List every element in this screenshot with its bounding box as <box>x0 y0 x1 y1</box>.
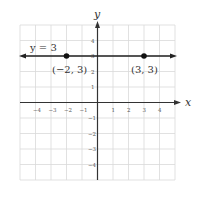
x-tick: 2 <box>127 107 131 113</box>
y-tick: −1 <box>88 115 96 121</box>
x-tick: −4 <box>33 107 42 113</box>
point-neg2-3 <box>64 53 70 59</box>
point-3-3 <box>141 53 147 59</box>
y-tick: 1 <box>91 84 95 90</box>
y-axis-arrow-icon <box>95 21 100 28</box>
x-tick: −1 <box>80 107 88 113</box>
x-tick: −3 <box>49 107 58 113</box>
line-label: y = 3 <box>29 42 57 53</box>
x-axis-label: x <box>185 96 192 109</box>
x-axis-arrow-icon <box>174 100 181 105</box>
y-tick: 4 <box>91 38 95 44</box>
y-tick: 2 <box>91 69 95 75</box>
x-tick: 3 <box>143 107 147 113</box>
y-tick: −2 <box>88 131 96 137</box>
x-tick: 1 <box>112 107 116 113</box>
point-a-label: (−2, 3) <box>52 64 87 75</box>
y-axis-label: y <box>93 8 101 21</box>
y-tick: −4 <box>88 162 97 168</box>
coordinate-plane: x y −4 −3 −2 −1 1 2 3 4 4 3 2 1 −1 −2 −3… <box>0 0 197 199</box>
point-b-label: (3, 3) <box>131 64 158 75</box>
x-tick: −2 <box>64 107 72 113</box>
y-tick: −3 <box>88 146 97 152</box>
line-right-arrow-icon <box>170 54 177 59</box>
x-tick: 4 <box>158 107 162 113</box>
